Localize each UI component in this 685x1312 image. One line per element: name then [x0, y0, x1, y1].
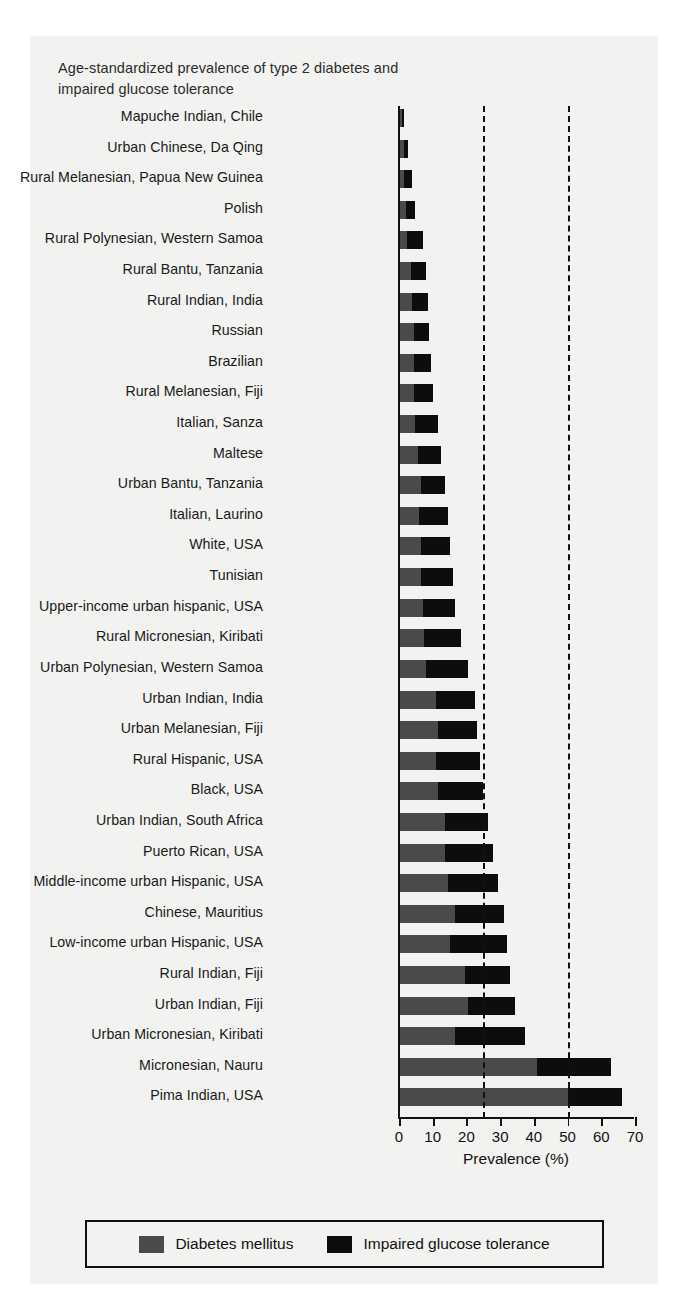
stacked-bar — [399, 966, 510, 984]
x-tick-label: 20 — [458, 1128, 475, 1145]
bar-segment-diabetes — [399, 629, 424, 647]
category-label: Urban Bantu, Tanzania — [118, 474, 263, 492]
bar-segment-diabetes — [399, 599, 423, 617]
bar-segment-diabetes — [399, 844, 445, 862]
bar-row: Russian — [30, 320, 658, 349]
stacked-bar — [399, 507, 448, 525]
bar-segment-diabetes — [399, 660, 426, 678]
bar-segment-igt — [438, 721, 477, 739]
bar-segment-diabetes — [399, 446, 418, 464]
category-label: Italian, Laurino — [169, 505, 263, 523]
stacked-bar — [399, 231, 423, 249]
legend-item-diabetes: Diabetes mellitus — [139, 1235, 293, 1253]
bar-row: White, USA — [30, 534, 658, 563]
bar-segment-igt — [445, 813, 489, 831]
category-label: Chinese, Mauritius — [145, 903, 263, 921]
stacked-bar — [399, 813, 488, 831]
x-tick-label: 10 — [424, 1128, 441, 1145]
bar-segment-igt — [426, 660, 468, 678]
igt-swatch-icon — [327, 1236, 352, 1253]
category-label: Tunisian — [210, 566, 264, 584]
bar-segment-diabetes — [399, 905, 455, 923]
category-label: Urban Indian, South Africa — [96, 811, 263, 829]
bar-row: Italian, Sanza — [30, 412, 658, 441]
category-label: White, USA — [189, 535, 263, 553]
category-label: Upper-income urban hispanic, USA — [39, 597, 263, 615]
bar-segment-diabetes — [399, 782, 438, 800]
category-label: Pima Indian, USA — [150, 1086, 263, 1104]
bar-segment-igt — [414, 354, 431, 372]
bar-segment-diabetes — [399, 476, 421, 494]
bar-row: Maltese — [30, 443, 658, 472]
x-tick-label: 0 — [395, 1128, 403, 1145]
bar-segment-igt — [468, 997, 515, 1015]
x-tick — [568, 1117, 570, 1126]
bar-segment-igt — [436, 752, 480, 770]
bar-segment-igt — [411, 262, 426, 280]
bar-segment-igt — [568, 1088, 622, 1106]
bar-segment-diabetes — [399, 1027, 455, 1045]
category-label: Low-income urban Hispanic, USA — [49, 933, 263, 951]
category-label: Rural Melanesian, Papua New Guinea — [20, 168, 263, 186]
x-tick — [534, 1117, 536, 1126]
category-label: Rural Indian, India — [147, 291, 263, 309]
bar-segment-igt — [436, 691, 475, 709]
bar-row: Mapuche Indian, Chile — [30, 106, 658, 135]
x-tick — [399, 1117, 401, 1126]
bar-segment-igt — [421, 568, 453, 586]
chart-title-line-1: Age-standardized prevalence of type 2 di… — [58, 60, 398, 76]
stacked-bar — [399, 201, 415, 219]
x-tick — [635, 1117, 637, 1126]
bar-segment-igt — [402, 109, 403, 127]
bar-segment-igt — [438, 782, 484, 800]
stacked-bar — [399, 293, 428, 311]
bar-row: Chinese, Mauritius — [30, 902, 658, 931]
stacked-bar — [399, 140, 408, 158]
bar-segment-igt — [455, 1027, 526, 1045]
stacked-bar — [399, 997, 515, 1015]
bar-segment-diabetes — [399, 262, 411, 280]
x-tick — [601, 1117, 603, 1126]
stacked-bar — [399, 323, 429, 341]
category-label: Maltese — [213, 444, 263, 462]
category-label: Urban Micronesian, Kiribati — [91, 1025, 263, 1043]
bar-segment-diabetes — [399, 354, 414, 372]
category-label: Urban Chinese, Da Qing — [107, 138, 263, 156]
bar-segment-diabetes — [399, 384, 414, 402]
bar-row: Upper-income urban hispanic, USA — [30, 596, 658, 625]
bar-row: Urban Micronesian, Kiribati — [30, 1024, 658, 1053]
bar-segment-igt — [412, 293, 427, 311]
stacked-bar — [399, 905, 504, 923]
stacked-bar — [399, 568, 453, 586]
category-label: Mapuche Indian, Chile — [121, 107, 263, 125]
category-label: Urban Indian, India — [142, 689, 263, 707]
stacked-bar — [399, 476, 445, 494]
y-axis-line — [398, 106, 400, 1118]
x-axis-label: Prevalence (%) — [398, 1150, 634, 1168]
bar-segment-diabetes — [399, 874, 448, 892]
bar-segment-diabetes — [399, 323, 414, 341]
bar-row: Rural Bantu, Tanzania — [30, 259, 658, 288]
bar-segment-igt — [421, 537, 450, 555]
bar-segment-igt — [404, 140, 407, 158]
bar-row: Urban Indian, South Africa — [30, 810, 658, 839]
stacked-bar — [399, 844, 493, 862]
bar-segment-igt — [407, 231, 422, 249]
legend-item-igt: Impaired glucose tolerance — [327, 1235, 549, 1253]
category-label: Rural Indian, Fiji — [160, 964, 263, 982]
bar-row: Micronesian, Nauru — [30, 1055, 658, 1084]
stacked-bar — [399, 721, 477, 739]
x-tick-label: 50 — [559, 1128, 576, 1145]
stacked-bar — [399, 752, 480, 770]
stacked-bar — [399, 1058, 611, 1076]
category-label: Urban Polynesian, Western Samoa — [40, 658, 263, 676]
category-label: Middle-income urban Hispanic, USA — [33, 872, 263, 890]
diabetes-swatch-icon — [139, 1236, 164, 1253]
category-label: Urban Indian, Fiji — [155, 995, 263, 1013]
bar-segment-diabetes — [399, 721, 438, 739]
category-label: Puerto Rican, USA — [143, 842, 263, 860]
bar-row: Rural Micronesian, Kiribati — [30, 626, 658, 655]
category-label: Brazilian — [208, 352, 263, 370]
x-tick — [466, 1117, 468, 1126]
stacked-bar — [399, 782, 483, 800]
